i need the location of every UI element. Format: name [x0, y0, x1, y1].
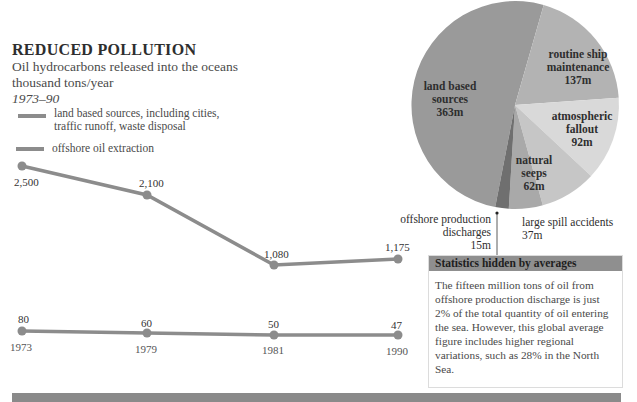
- pie-label-land-value: 363m: [437, 106, 464, 118]
- x-tick-label: 1979: [135, 343, 157, 355]
- info-box-body: The fifteen million tons of oil from off…: [435, 278, 616, 376]
- data-point: [394, 331, 403, 340]
- data-point: [18, 327, 27, 336]
- pie-label-offshore-name: offshore production: [380, 213, 491, 226]
- offshore-series-line: [22, 331, 398, 335]
- info-box-title: Statistics hidden by averages: [429, 256, 622, 271]
- value-label: 2,500: [14, 176, 39, 188]
- leader-dot: [495, 211, 498, 214]
- x-tick-label: 1981: [262, 344, 284, 356]
- value-label: 2,100: [139, 177, 164, 189]
- pie-label-routine: routine ship: [549, 48, 608, 61]
- pie-label-spill: large spill accidents 37m: [522, 216, 613, 242]
- pie-label-spill-value: 37m: [522, 229, 613, 242]
- pie-label-offshore: offshore production discharges 15m: [400, 213, 491, 252]
- pie-label-natural-value: 62m: [523, 180, 545, 192]
- line-chart: [0, 0, 420, 402]
- value-label: 1,080: [264, 248, 289, 260]
- pie-label-atmospheric: atmospheric: [552, 110, 613, 123]
- value-label: 50: [268, 318, 279, 330]
- pie-label-natural: natural: [516, 154, 552, 166]
- pie-label-atmospheric-value: 92m: [571, 136, 593, 148]
- pie-label-atmospheric: fallout: [566, 123, 598, 135]
- pie-label-land: sources: [432, 93, 469, 105]
- info-box: Statistics hidden by averages The fiftee…: [428, 255, 623, 388]
- data-point: [270, 331, 279, 340]
- data-point: [143, 191, 152, 200]
- pie-label-natural: seeps: [521, 167, 547, 180]
- pie-label-offshore-value: 15m: [400, 239, 491, 252]
- pie-label-routine-value: 137m: [565, 74, 592, 86]
- value-label: 60: [141, 317, 152, 329]
- value-label: 47: [391, 319, 402, 331]
- value-label: 80: [18, 313, 29, 325]
- x-tick-label: 1990: [386, 345, 408, 357]
- land-series-line: [22, 166, 398, 265]
- data-point: [143, 329, 152, 338]
- pie-label-offshore-name: discharges: [400, 226, 491, 239]
- footer-band: [12, 393, 621, 402]
- pie-label-land: land based: [424, 80, 477, 92]
- data-point: [270, 261, 279, 270]
- pie-label-routine: maintenance: [547, 61, 610, 73]
- x-tick-label: 1973: [10, 341, 32, 353]
- data-point: [18, 162, 27, 171]
- pie-label-spill-name: large spill accidents: [522, 216, 613, 229]
